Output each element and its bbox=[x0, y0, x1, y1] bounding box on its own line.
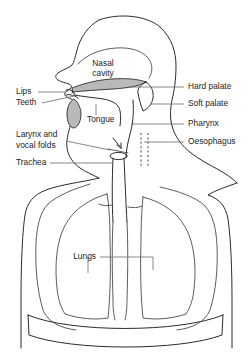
label-larynx-line1: Larynx and bbox=[16, 129, 58, 139]
leader-larynx bbox=[66, 141, 110, 150]
vocal-folds-marker bbox=[113, 138, 121, 148]
trachea-tube bbox=[112, 158, 113, 222]
hard-palate-shape bbox=[72, 79, 146, 92]
label-oesophagus: Oesophagus bbox=[188, 136, 236, 146]
label-hard-palate: Hard palate bbox=[188, 81, 232, 91]
larynx-ellipse bbox=[110, 152, 127, 159]
head-outline bbox=[99, 16, 219, 170]
neck-back-line bbox=[219, 170, 237, 183]
leader-lungs-bracket bbox=[88, 257, 153, 273]
label-nasal-cavity-line1: Nasal bbox=[92, 58, 114, 68]
soft-palate-shape bbox=[138, 82, 153, 111]
tongue-shape bbox=[67, 99, 81, 128]
label-tongue: Tongue bbox=[87, 114, 115, 124]
bronchus-left bbox=[99, 204, 112, 206]
label-larynx-line2: vocal folds bbox=[16, 140, 56, 150]
trachea-tube-right bbox=[124, 158, 127, 222]
nasal-cavity-outline bbox=[78, 48, 152, 78]
face-profile bbox=[56, 20, 99, 178]
label-lips: Lips bbox=[16, 86, 31, 96]
torso-outline bbox=[21, 178, 99, 348]
leader-teeth bbox=[42, 96, 74, 103]
lung-right bbox=[141, 197, 195, 319]
anatomy-diagram: Nasal cavity Tongue Lips Teeth Larynx an… bbox=[0, 0, 250, 363]
label-soft-palate: Soft palate bbox=[188, 98, 228, 108]
label-trachea: Trachea bbox=[16, 157, 47, 167]
pharynx-wall bbox=[126, 100, 133, 158]
label-teeth: Teeth bbox=[16, 97, 37, 107]
label-pharynx: Pharynx bbox=[188, 118, 220, 128]
label-lungs: Lungs bbox=[73, 251, 96, 261]
bronchus-right bbox=[128, 206, 142, 208]
vocal-tract-illustration: Nasal cavity Tongue Lips Teeth Larynx an… bbox=[0, 0, 250, 363]
mediastinum bbox=[112, 222, 128, 320]
label-nasal-cavity-line2: cavity bbox=[92, 68, 114, 78]
